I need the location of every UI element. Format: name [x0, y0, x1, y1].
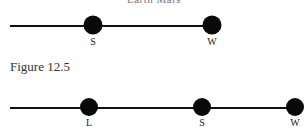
node-l — [80, 98, 98, 116]
node-s — [193, 98, 211, 116]
node-s — [84, 16, 103, 35]
node-label-w: W — [207, 36, 217, 47]
node-label-w: W — [290, 117, 300, 128]
node-label-s: S — [90, 36, 96, 47]
diagram-figure-12-5: L S W — [0, 70, 308, 140]
node-w — [203, 16, 222, 35]
diagram-top-svg: S W — [0, 0, 308, 52]
node-w — [286, 98, 304, 116]
node-label-l: L — [86, 117, 92, 128]
diagram-bottom-svg: L S W — [0, 70, 308, 140]
node-label-s: S — [199, 117, 205, 128]
diagram-top: S W — [0, 0, 308, 52]
